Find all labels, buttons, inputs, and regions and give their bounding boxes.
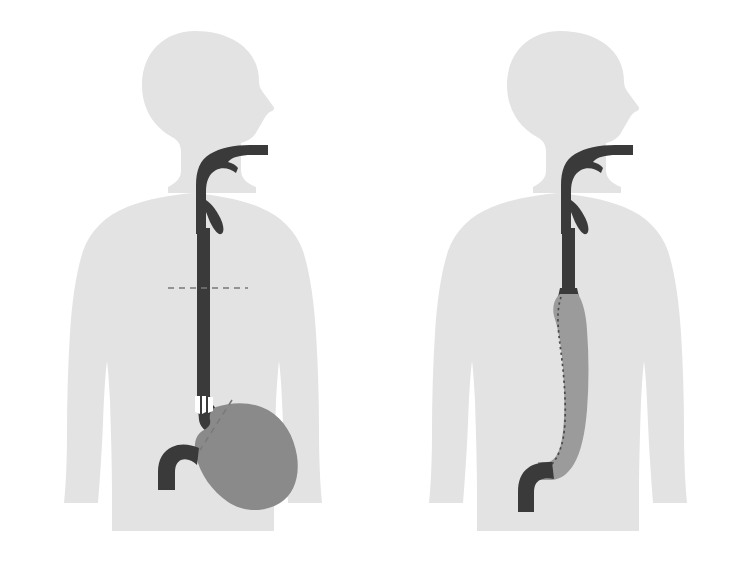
left-panel xyxy=(64,31,322,531)
esophagectomy-diagram xyxy=(0,0,738,578)
left-transection-marks xyxy=(195,396,213,414)
right-panel xyxy=(429,31,687,531)
diagram-canvas xyxy=(0,0,738,578)
right-cervical-esophagus-remnant xyxy=(562,228,575,292)
